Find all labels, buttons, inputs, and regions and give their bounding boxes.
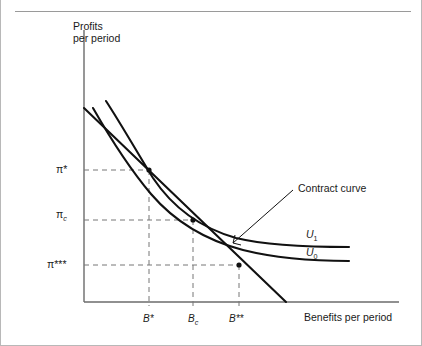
y-tick-label-pi-c: πc [56,208,67,224]
x-tick-b-c-sub: c [195,318,199,327]
y-tick-pi-3star-sup: *** [54,258,66,270]
x-axis-title: Benefits per period [304,311,392,323]
curve-u1 [106,101,349,247]
tangency-point-b-star [146,167,151,172]
x-tick-label-b-2star: B** [229,313,243,325]
x-tick-b-2star-base: B [229,313,236,324]
x-tick-b-2star-sup: ** [236,313,244,324]
x-tick-b-star-base: B [143,313,150,324]
y-axis-title-line2: per period [73,32,120,44]
figure-frame: Profits per period Benefits per period π… [0,0,422,346]
contract-curve-annotation: Contract curve [298,182,366,194]
curve-label-u1-base: U [306,228,314,240]
y-axis-title-line1: Profits [73,20,120,32]
curve-label-u0-base: U [306,246,314,258]
y-tick-label-pi-3star: π*** [47,258,67,270]
contract-curve-line [84,108,286,302]
y-tick-pi-star-sup: * [63,163,67,175]
x-tick-b-star-sup: * [150,313,154,324]
curve-label-u0-sub: 0 [314,252,318,261]
x-tick-b-c-base: B [188,313,195,324]
curve-label-u0: U0 [306,246,318,262]
contract-curve-leader [233,190,293,243]
y-tick-pi-c-sub: c [63,214,67,223]
curve-label-u1: U1 [306,228,318,244]
x-tick-label-b-star: B* [143,313,154,325]
x-tick-label-b-c: Bc [188,313,198,327]
y-axis-title: Profits per period [73,20,120,45]
y-tick-label-pi-star: π* [56,163,67,175]
tangency-point-b-2star [236,262,241,267]
tangency-point-b-c [190,217,195,222]
curve-label-u1-sub: 1 [314,234,318,243]
